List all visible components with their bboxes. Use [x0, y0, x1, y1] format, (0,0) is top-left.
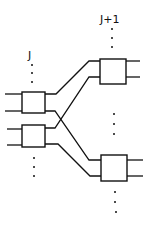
- interconnect-wires: [45, 61, 101, 176]
- stage-j-label: J: [27, 49, 31, 62]
- stage-j-box-2: [22, 125, 45, 147]
- stage-j1-box-2: [101, 155, 127, 181]
- stage-j-box-1: [22, 92, 45, 113]
- stage-j1-box-1: [100, 59, 126, 84]
- stage-j1-label: J+1: [99, 13, 119, 26]
- left-input-wires: [5, 94, 22, 145]
- continuation-dots-right-bottom: [114, 191, 117, 213]
- stage-interconnect-diagram: J J+1: [0, 0, 150, 225]
- right-output-wires: [126, 61, 143, 176]
- continuation-dots-right-middle: [113, 113, 115, 135]
- continuation-dots-left-top: [31, 64, 33, 83]
- continuation-dots-right-top: [111, 28, 113, 48]
- continuation-dots-left-bottom: [33, 157, 35, 177]
